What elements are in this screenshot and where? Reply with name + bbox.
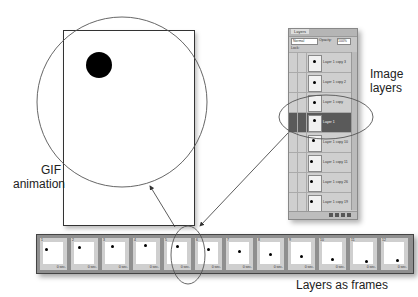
animation-frame[interactable]: 100 sec. (319, 238, 346, 270)
visibility-toggle[interactable] (289, 133, 298, 153)
layer-thumbnail (308, 195, 322, 212)
frame-delay[interactable]: 0 sec. (274, 265, 283, 269)
link-toggle[interactable] (298, 133, 307, 153)
thumb-dot (313, 60, 316, 63)
panel-tab-bar: Layers (289, 29, 357, 37)
frame-thumbnail (384, 242, 404, 264)
frame-delay[interactable]: 0 sec. (181, 265, 190, 269)
link-toggle[interactable] (298, 173, 307, 193)
layer-row[interactable]: Layer 1 copy 19 (289, 192, 351, 213)
tab-layers[interactable]: Layers (291, 29, 309, 34)
visibility-toggle[interactable] (289, 113, 298, 133)
frame-thumbnail (229, 242, 249, 264)
animation-frame[interactable]: 50 sec. (164, 238, 191, 270)
layer-thumbnail (308, 135, 322, 152)
animation-frames-strip: 10 sec.20 sec.30 sec.40 sec.50 sec.60 se… (36, 234, 414, 274)
frame-dot (78, 246, 81, 249)
gif-label-line2: animation (13, 177, 61, 191)
thumb-dot (310, 200, 313, 203)
image-layers-label: Image layers (370, 67, 403, 95)
frame-delay[interactable]: 0 sec. (57, 265, 66, 269)
frame-delay[interactable]: 0 sec. (243, 265, 252, 269)
layers-panel: Layers Normal Opacity: 100% Lock: Layer … (288, 28, 358, 220)
layer-thumbnail (308, 155, 322, 172)
layers-scrollbar[interactable] (351, 52, 357, 210)
new-layer-icon[interactable] (335, 213, 339, 217)
gif-animation-label: GIF animation (13, 163, 61, 191)
layer-name: Layer 1 (323, 120, 335, 124)
trash-icon[interactable] (347, 213, 351, 217)
layer-row[interactable]: Layer 1 copy 2 (289, 72, 351, 93)
frame-dot (144, 244, 147, 247)
thumb-dot (313, 119, 316, 122)
frame-thumbnail (322, 242, 342, 264)
frame-delay[interactable]: 0 sec. (305, 265, 314, 269)
thumb-dot (313, 81, 316, 84)
visibility-toggle[interactable] (289, 93, 298, 113)
animation-frame[interactable]: 70 sec. (226, 238, 253, 270)
frame-dot (269, 253, 272, 256)
visibility-toggle[interactable] (289, 193, 298, 213)
visibility-toggle[interactable] (289, 73, 298, 93)
frame-thumbnail (260, 242, 280, 264)
frame-delay[interactable]: 0 sec. (119, 265, 128, 269)
animation-frame[interactable]: 60 sec. (195, 238, 222, 270)
lock-label: Lock: (291, 46, 299, 50)
opacity-input[interactable]: 100% (337, 38, 351, 45)
layers-as-frames-label: Layers as frames (296, 278, 388, 292)
gif-animation-canvas (63, 30, 195, 226)
link-toggle[interactable] (298, 93, 307, 113)
link-toggle[interactable] (298, 53, 307, 73)
layer-thumbnail (308, 175, 322, 192)
link-toggle[interactable] (298, 193, 307, 213)
frame-delay[interactable]: 0 sec. (367, 265, 376, 269)
layer-row[interactable]: Layer 1 copy 3 (289, 52, 351, 73)
layer-thumbnail (308, 75, 322, 92)
frame-thumbnail (105, 242, 125, 264)
layer-row[interactable]: Layer 1 copy 26 (289, 172, 351, 193)
layer-row[interactable]: Layer 1 copy 11 (289, 152, 351, 173)
frame-thumbnail (198, 242, 218, 264)
layer-name: Layer 1 copy 10 (323, 140, 348, 144)
link-icon[interactable] (329, 213, 333, 217)
frame-thumbnail (291, 242, 311, 264)
frame-delay[interactable]: 0 sec. (398, 265, 407, 269)
animated-ball (86, 52, 112, 78)
visibility-toggle[interactable] (289, 53, 298, 73)
thumb-dot (310, 160, 313, 163)
animation-frame[interactable]: 110 sec. (350, 238, 377, 270)
animation-frame[interactable]: 30 sec. (102, 238, 129, 270)
layer-name: Layer 1 copy 26 (323, 180, 348, 184)
frame-delay[interactable]: 0 sec. (212, 265, 221, 269)
link-toggle[interactable] (298, 73, 307, 93)
frame-dot (176, 245, 179, 248)
image-label-line2: layers (370, 81, 403, 95)
opacity-label: Opacity: (319, 38, 332, 42)
frame-delay[interactable]: 0 sec. (88, 265, 97, 269)
thumb-dot (313, 101, 316, 104)
gif-label-line1: GIF (13, 163, 61, 177)
frame-dot (45, 248, 48, 251)
layer-row[interactable]: Layer 1 copy (289, 92, 351, 113)
frame-dot (365, 260, 368, 263)
animation-frame[interactable]: 10 sec. (40, 238, 67, 270)
blend-mode-select[interactable]: Normal (291, 38, 318, 45)
link-toggle[interactable] (298, 153, 307, 173)
frame-thumbnail (74, 242, 94, 264)
frame-delay[interactable]: 0 sec. (150, 265, 159, 269)
animation-frame[interactable]: 90 sec. (288, 238, 315, 270)
frame-delay[interactable]: 0 sec. (336, 265, 345, 269)
image-label-line1: Image (370, 67, 403, 81)
visibility-toggle[interactable] (289, 173, 298, 193)
animation-frame[interactable]: 20 sec. (71, 238, 98, 270)
layer-row[interactable]: Layer 1 (289, 112, 351, 133)
animation-frame[interactable]: 120 sec. (381, 238, 408, 270)
folder-icon[interactable] (341, 213, 345, 217)
frame-thumbnail (167, 242, 187, 264)
link-toggle[interactable] (298, 113, 307, 133)
animation-frame[interactable]: 40 sec. (133, 238, 160, 270)
animation-frame[interactable]: 80 sec. (257, 238, 284, 270)
layer-row[interactable]: Layer 1 copy 10 (289, 132, 351, 153)
visibility-toggle[interactable] (289, 153, 298, 173)
thumb-dot (310, 180, 313, 183)
